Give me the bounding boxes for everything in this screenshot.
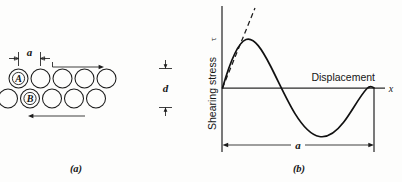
bottom-shear-arrow-left — [28, 114, 85, 118]
atom-bottom-5 — [87, 89, 106, 108]
atom-row-top: A — [9, 69, 116, 88]
period-dimension-a: a — [223, 139, 375, 151]
atom-a-label: A — [14, 73, 22, 84]
panel-a-caption: (a) — [70, 163, 82, 175]
atom-top-2 — [31, 69, 50, 88]
x-axis-label: Displacement — [311, 71, 375, 83]
label-separation-d: d — [163, 82, 169, 94]
atom-bottom-3 — [43, 89, 62, 108]
panel-b-caption: (b) — [293, 163, 305, 175]
figure-container: a A — [0, 0, 402, 182]
panel-b-group: Displacement x Shearing stress τ a (b) — [206, 6, 394, 175]
atom-b-label: B — [26, 93, 34, 104]
label-spacing-a: a — [27, 46, 33, 58]
panel-a-group: a A — [0, 46, 172, 176]
atom-top-4 — [75, 69, 94, 88]
atom-top-3 — [53, 69, 72, 88]
spacing-dimension-a: a — [9, 46, 50, 67]
figure-svg: a A — [0, 0, 402, 182]
y-axis-symbol-tau: τ — [208, 37, 218, 41]
atom-bottom-4 — [65, 89, 84, 108]
label-period-a: a — [295, 139, 301, 151]
initial-tangent-dashed-line — [223, 8, 256, 88]
x-axis-symbol: x — [388, 83, 394, 94]
separation-dimension-d: d — [159, 60, 172, 116]
atom-top-5 — [97, 69, 116, 88]
top-shear-arrow-right — [53, 62, 105, 69]
y-axis-label: Shearing stress — [206, 57, 218, 130]
atom-row-bottom: B — [0, 89, 106, 108]
atom-bottom-1 — [0, 89, 18, 108]
